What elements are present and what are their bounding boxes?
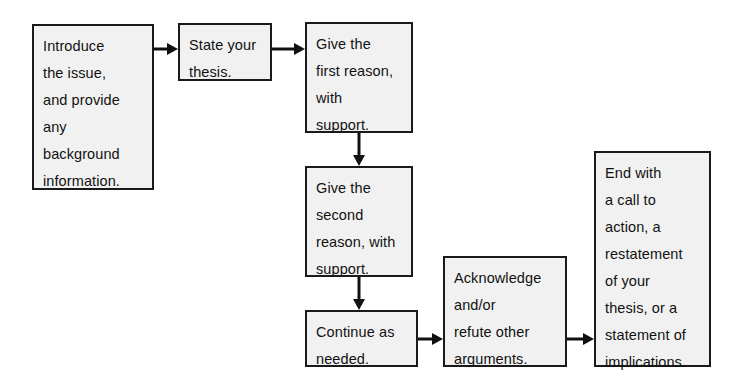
arrow-continue-to-acknowledge [418,331,443,347]
introduce-the-issue: Introduce the issue, and provide any bac… [32,24,154,190]
arrow-acknowledge-to-end [567,331,594,347]
state-your-thesis: State your thesis. [178,23,272,81]
end-with-call-to-action: End with a call to action, a restatement… [594,151,711,367]
flowchart-diagram: Introduce the issue, and provide any bac… [0,0,750,387]
acknowledge-refute: Acknowledge and/or refute other argument… [443,256,567,367]
give-first-reason: Give the first reason, with support. [305,22,413,133]
give-second-reason: Give the second reason, with support. [305,166,413,277]
continue-as-needed: Continue as needed. [305,310,418,367]
arrow-thesis-to-first-reason [272,41,305,57]
arrow-introduce-to-thesis [154,41,178,57]
